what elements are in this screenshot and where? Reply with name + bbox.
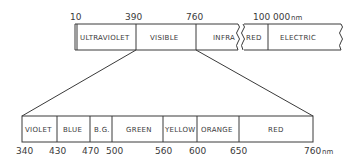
visible-spectrum-bar: VIOLET BLUE B.G. GREEN YELLOW ORANGE RED… — [16, 116, 333, 156]
tick-760-bottom: 760 — [304, 146, 321, 156]
tick-600: 600 — [189, 146, 206, 156]
segment-infra: INFRA — [213, 34, 235, 42]
tick-470: 470 — [82, 146, 99, 156]
segment-orange: ORANGE — [201, 126, 233, 134]
expansion-line-right — [196, 50, 313, 116]
segment-yellow: YELLOW — [164, 126, 195, 134]
tick-560: 560 — [155, 146, 172, 156]
tick-unit-bottom: nm — [322, 148, 333, 156]
segment-red: RED — [268, 126, 284, 134]
tick-430: 430 — [49, 146, 66, 156]
segment-electric: ELECTRIC — [280, 34, 316, 42]
tick-unit-top: nm — [291, 14, 302, 22]
tick-650: 650 — [230, 146, 247, 156]
top-bar-right-wavy-edge — [340, 24, 343, 50]
spectrum-diagram: ULTRAVIOLET VISIBLE INFRA RED ELECTRIC 1… — [0, 0, 347, 162]
top-spectrum-bar: ULTRAVIOLET VISIBLE INFRA RED ELECTRIC 1… — [70, 12, 343, 50]
segment-blue: BLUE — [63, 126, 82, 134]
segment-visible: VISIBLE — [150, 34, 179, 42]
tick-340: 340 — [16, 146, 33, 156]
break-mark-left — [237, 24, 240, 50]
break-mark-right — [242, 24, 245, 50]
tick-100000: 100 000 — [253, 12, 290, 22]
tick-10: 10 — [70, 12, 82, 22]
segment-violet: VIOLET — [25, 126, 52, 134]
tick-500: 500 — [106, 146, 123, 156]
tick-760: 760 — [186, 12, 203, 22]
segment-red-top: RED — [246, 34, 262, 42]
segment-ultraviolet: ULTRAVIOLET — [80, 34, 130, 42]
segment-green: GREEN — [126, 126, 152, 134]
expansion-line-left — [22, 50, 136, 116]
segment-blue-green: B.G. — [94, 126, 110, 134]
tick-390: 390 — [125, 12, 142, 22]
